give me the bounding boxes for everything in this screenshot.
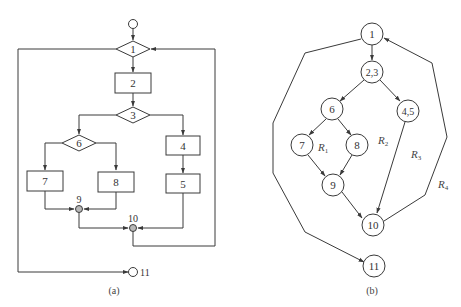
node-label: 6 xyxy=(76,137,82,149)
edge-8-9 xyxy=(84,192,116,209)
graph-node-8: 8 xyxy=(346,134,368,156)
edge-1-11-exit xyxy=(18,49,128,272)
node-label: 8 xyxy=(113,176,119,188)
flowgraph-b: 1 2,3 6 4,5 7 8 9 10 xyxy=(273,23,449,297)
node-label: 2,3 xyxy=(366,67,379,78)
node-label: 4 xyxy=(180,140,186,152)
node-label: 5 xyxy=(180,178,186,190)
process-node-2: 2 xyxy=(115,73,151,93)
edge-7-9 xyxy=(45,191,74,209)
graph-node-2-3: 2,3 xyxy=(361,61,383,83)
edge-10-1 xyxy=(384,38,447,221)
node-label: 10 xyxy=(128,213,138,224)
graph-node-11: 11 xyxy=(363,255,385,277)
node-label: 1 xyxy=(369,28,375,40)
node-label: 1 xyxy=(130,43,136,55)
node-label: 11 xyxy=(369,260,380,272)
graph-node-4-5: 4,5 xyxy=(397,100,419,122)
graph-node-1: 1 xyxy=(361,23,383,45)
node-label: 11 xyxy=(140,267,150,278)
edge-9-10 xyxy=(342,192,362,218)
region-label-r3: R3 xyxy=(410,148,422,162)
edge-6-7 xyxy=(309,119,326,135)
decision-node-3: 3 xyxy=(116,107,150,123)
flowchart-a: 1 2 3 6 4 xyxy=(18,20,215,297)
start-node xyxy=(129,20,138,29)
edge-6-8 xyxy=(96,143,116,170)
edge-9-10 xyxy=(79,213,128,229)
junction-node-10: 10 xyxy=(128,213,138,232)
graph-node-6: 6 xyxy=(321,98,343,120)
caption-b: (b) xyxy=(366,285,378,297)
edge-23-6 xyxy=(340,80,364,101)
edge-8-9 xyxy=(340,155,352,175)
node-label: 9 xyxy=(77,194,82,205)
process-node-7: 7 xyxy=(27,171,63,191)
edge-6-8 xyxy=(338,119,351,135)
graph-node-9: 9 xyxy=(322,174,344,196)
process-node-4: 4 xyxy=(166,136,200,155)
node-label: 10 xyxy=(368,219,380,231)
decision-node-1: 1 xyxy=(116,41,150,57)
node-label: 2 xyxy=(130,77,136,89)
node-label: 6 xyxy=(329,103,335,115)
end-node-11: 11 xyxy=(129,267,150,278)
edge-5-10 xyxy=(138,193,183,228)
edge-6-7 xyxy=(45,143,62,170)
edge-23-45 xyxy=(380,80,400,101)
edge-3-6 xyxy=(79,115,116,134)
diagram-canvas: 1 2 3 6 4 xyxy=(0,0,461,307)
edge-3-4 xyxy=(150,115,183,135)
process-node-5: 5 xyxy=(166,174,200,193)
graph-node-10: 10 xyxy=(362,214,384,236)
decision-node-6: 6 xyxy=(62,135,96,151)
node-label: 9 xyxy=(330,179,336,191)
region-label-r4: R4 xyxy=(437,178,449,192)
region-label-r1: R1 xyxy=(317,141,329,155)
junction-node-9: 9 xyxy=(76,194,83,213)
graph-node-7: 7 xyxy=(291,134,313,156)
process-node-8: 8 xyxy=(98,172,134,192)
node-label: 7 xyxy=(299,139,305,151)
caption-a: (a) xyxy=(108,285,119,297)
node-label: 4,5 xyxy=(402,106,415,117)
edge-7-9 xyxy=(308,155,325,176)
node-label: 8 xyxy=(354,139,360,151)
region-label-r2: R2 xyxy=(377,134,389,148)
node-label: 7 xyxy=(42,175,48,187)
node-label: 3 xyxy=(130,109,136,121)
